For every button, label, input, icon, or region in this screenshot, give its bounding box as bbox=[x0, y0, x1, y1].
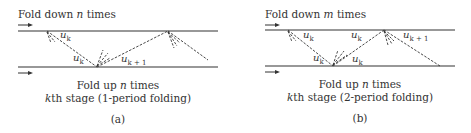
label-uk: uk bbox=[352, 53, 363, 67]
arrow-right-icon bbox=[265, 70, 280, 74]
panel-b: Fold down m times uk uk uk uk bbox=[265, 8, 455, 124]
arrow-right-icon bbox=[18, 23, 33, 27]
arrow-right-icon bbox=[265, 23, 280, 27]
panel-b-title: Fold down m times bbox=[265, 8, 366, 20]
arrow-right-icon bbox=[18, 71, 33, 75]
panel-a-stage: kth stage (1-period folding) bbox=[45, 92, 191, 104]
panel-a-caption: (a) bbox=[111, 113, 125, 125]
label-uk: uk bbox=[303, 29, 314, 43]
label-uk: uk bbox=[351, 29, 362, 43]
panel-a-fold-up: Fold up n times bbox=[77, 79, 160, 91]
panel-b-stage: kth stage (2-period folding) bbox=[287, 91, 433, 103]
label-uk-plus-1: uk + 1 bbox=[403, 29, 428, 43]
folding-diagram: Fold down n times uk uk uk + 1 bbox=[0, 0, 471, 133]
panel-b-fold-up: Fold up n times bbox=[319, 78, 402, 90]
label-uk: uk bbox=[73, 52, 84, 66]
panel-a: Fold down n times uk uk uk + 1 bbox=[18, 8, 218, 125]
label-uk-plus-1: uk + 1 bbox=[121, 53, 146, 67]
label-uk: uk bbox=[313, 52, 324, 66]
panel-b-caption: (b) bbox=[353, 112, 368, 124]
panel-a-title: Fold down n times bbox=[18, 8, 116, 20]
